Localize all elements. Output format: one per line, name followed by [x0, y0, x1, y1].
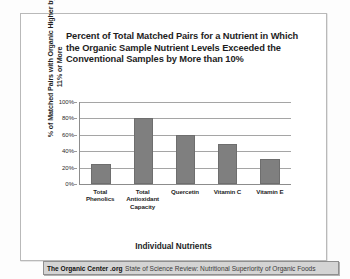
x-axis-category-label: Quercetin: [164, 188, 206, 210]
footer-subtitle: State of Science Review: Nutritional Sup…: [125, 265, 316, 272]
bar-slot: [122, 102, 164, 184]
x-axis-category-labels: Total PhenolicsTotal Antioxidant Capacit…: [79, 188, 291, 210]
chart-frame: Percent of Total Matched Pairs for a Nut…: [20, 13, 327, 261]
x-axis-category-label: Total Antioxidant Capacity: [121, 188, 163, 210]
bar: [218, 144, 237, 184]
footer-banner: The Organic Center .org State of Science…: [43, 261, 339, 275]
bar-slot: [164, 102, 206, 184]
bar: [176, 135, 195, 184]
bar-slot: [249, 102, 291, 184]
y-axis-tick-label: 80%: [50, 115, 74, 121]
x-axis-category-label: Vitamin E: [249, 188, 291, 210]
y-axis-tick-mark: [74, 151, 77, 152]
bar-slot: [80, 102, 122, 184]
y-axis-tick-label: 0%: [50, 181, 74, 187]
y-axis-tick-label: 20%: [50, 165, 74, 171]
y-axis-tick-mark: [74, 118, 77, 119]
bar: [260, 159, 279, 184]
y-axis-tick-labels: 0%20%40%60%80%100%: [53, 102, 77, 185]
footer-brand: The Organic Center .org: [47, 265, 122, 272]
chart-page: Percent of Total Matched Pairs for a Nut…: [0, 0, 350, 279]
bar-series: [80, 102, 291, 184]
y-axis-tick-mark: [74, 102, 77, 103]
x-axis-category-label: Total Phenolics: [79, 188, 121, 210]
plot-area: [79, 102, 291, 185]
y-axis-tick-mark: [74, 168, 77, 169]
y-axis-tick-label: 100%: [50, 99, 74, 105]
y-axis-tick-mark: [74, 184, 77, 185]
bar: [91, 164, 110, 184]
bar: [134, 118, 153, 184]
y-axis-tick-label: 40%: [50, 148, 74, 154]
plot-area-wrapper: 0%20%40%60%80%100%: [53, 102, 291, 185]
x-axis-category-label: Vitamin C: [206, 188, 248, 210]
y-axis-tick-label: 60%: [50, 132, 74, 138]
chart-title: Percent of Total Matched Pairs for a Nut…: [66, 31, 311, 66]
bar-slot: [207, 102, 249, 184]
y-axis-tick-mark: [74, 135, 77, 136]
x-axis-title: Individual Nutrients: [21, 242, 326, 251]
